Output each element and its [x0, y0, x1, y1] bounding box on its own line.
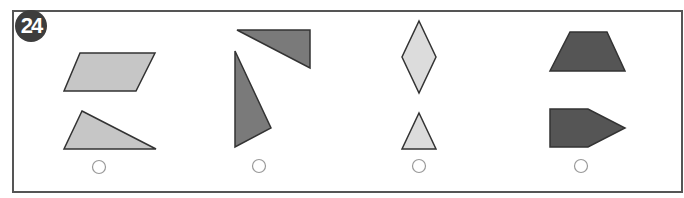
triangle-shape — [235, 51, 271, 147]
triangle-shape — [64, 111, 156, 149]
rhombus-shape — [402, 21, 436, 93]
right-triangle-shape — [237, 30, 310, 68]
option-d-radio[interactable] — [575, 160, 588, 173]
option-c-radio[interactable] — [413, 160, 426, 173]
shape-options — [0, 0, 684, 198]
pentagon-shape — [550, 109, 625, 147]
option-c — [402, 21, 436, 173]
isosceles-triangle-shape — [402, 113, 436, 149]
option-b — [235, 30, 310, 173]
option-b-radio[interactable] — [253, 160, 266, 173]
option-a — [64, 53, 156, 174]
parallelogram-shape — [64, 53, 155, 91]
option-a-radio[interactable] — [93, 161, 106, 174]
option-d — [550, 32, 625, 173]
trapezoid-shape — [550, 32, 625, 71]
